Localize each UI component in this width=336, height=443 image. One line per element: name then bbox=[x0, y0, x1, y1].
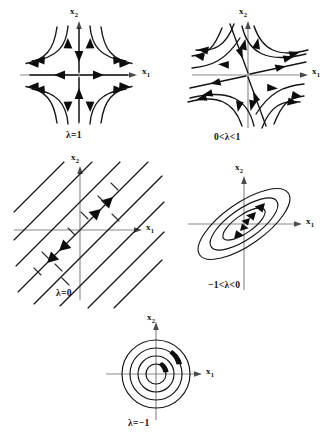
phase-portrait-figure: x2 x1 λ=1 bbox=[0, 0, 336, 443]
panel-caption: 0<λ<1 bbox=[214, 132, 241, 142]
panel-saddle-0-lt-lambda-lt-1-svg bbox=[182, 6, 330, 148]
axes bbox=[14, 166, 142, 300]
axis-label-x1: x1 bbox=[312, 66, 320, 78]
axis-label-x1: x1 bbox=[146, 222, 154, 234]
axis-label-x2: x2 bbox=[71, 152, 79, 164]
panel-spiral-minus1-lt-lambda-lt-0-svg bbox=[178, 158, 334, 310]
axis-label-x2: x2 bbox=[147, 312, 155, 324]
panel-saddle-0-lt-lambda-lt-1: x2 x1 0<λ<1 bbox=[182, 6, 330, 148]
parallel-trajectory-lines bbox=[14, 162, 164, 308]
panel-degenerate-lambda-0: x2 x1 λ=0 bbox=[4, 152, 170, 318]
axis-label-x1: x1 bbox=[306, 216, 314, 228]
axis-label-x2: x2 bbox=[235, 162, 243, 174]
panel-degenerate-lambda-0-svg bbox=[4, 152, 170, 318]
axis-label-x2: x2 bbox=[70, 6, 78, 18]
panel-center-lambda-minus-1: x2 x1 λ=−1 bbox=[98, 312, 248, 443]
axes bbox=[106, 322, 202, 420]
panel-saddle-lambda-1-svg bbox=[8, 6, 156, 148]
axis-label-x1: x1 bbox=[142, 66, 150, 78]
axis-label-x1: x1 bbox=[206, 366, 214, 378]
axis-label-x2: x2 bbox=[239, 6, 247, 18]
panel-caption: −1<λ<0 bbox=[208, 280, 240, 290]
panel-caption: λ=1 bbox=[66, 130, 82, 140]
panel-caption: λ=0 bbox=[56, 288, 72, 298]
panel-caption: λ=−1 bbox=[128, 418, 149, 428]
flow-arrowheads bbox=[159, 350, 182, 373]
panel-spiral-minus1-lt-lambda-lt-0: x2 x1 −1<λ<0 bbox=[178, 158, 334, 310]
panel-saddle-lambda-1: x2 x1 λ=1 bbox=[8, 6, 156, 148]
panel-center-lambda-minus-1-svg bbox=[98, 312, 248, 443]
